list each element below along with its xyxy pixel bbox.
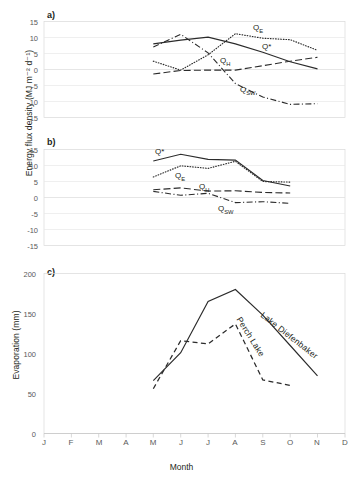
figure-panel-group: Energy flux density (MJ m⁻² d⁻¹) Evapora…	[0, 0, 363, 481]
x-tick-nov: N	[310, 438, 324, 447]
x-tick-jul: J	[201, 438, 215, 447]
x-tick-mar: M	[92, 438, 106, 447]
x-tick-feb: F	[64, 438, 78, 447]
x-tick-apr: A	[119, 438, 133, 447]
x-tick-sep: S	[256, 438, 270, 447]
x-tick-aug: A	[228, 438, 242, 447]
x-tick-may: M	[146, 438, 160, 447]
x-tick-jan: J	[37, 438, 51, 447]
x-tick-dec: D	[338, 438, 352, 447]
x-axis-title: Month	[0, 462, 363, 472]
x-tick-jun: J	[174, 438, 188, 447]
x-tick-oct: O	[283, 438, 297, 447]
x-axis	[0, 0, 363, 481]
